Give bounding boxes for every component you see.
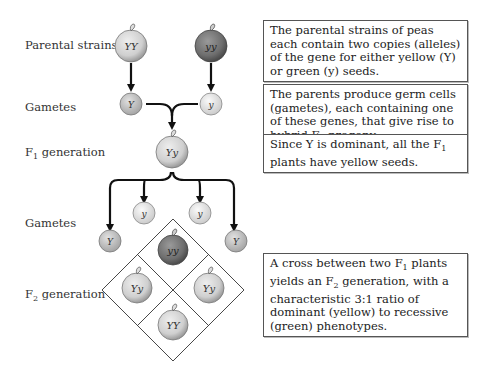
note-parental: The parental strains of peas each contai…: [263, 20, 468, 82]
note-f2: A cross between two F1 plants yields an …: [263, 253, 468, 337]
pea-f2-bottom: YY: [158, 304, 188, 340]
gamete-Y: Y: [120, 93, 142, 115]
gamete-Y-right: Y: [225, 230, 247, 252]
split-arrow-right: [198, 180, 200, 200]
pea-f2-left: Yy: [122, 267, 152, 303]
pea-f2-right: Yy: [194, 267, 224, 303]
svg-text:yy: yy: [166, 245, 179, 256]
pea-f1: Yy: [156, 130, 188, 168]
svg-text:y: y: [140, 209, 147, 219]
split-arrow-left: [144, 180, 145, 200]
svg-text:yy: yy: [204, 41, 217, 52]
svg-text:Y: Y: [128, 100, 135, 110]
svg-text:Yy: Yy: [166, 147, 179, 158]
note-f1: Since Y is dominant, all the F1 plants h…: [263, 134, 468, 173]
svg-text:y: y: [207, 100, 214, 110]
svg-text:Y: Y: [233, 237, 240, 247]
svg-text:Y: Y: [107, 237, 114, 247]
pea-f2-top-green: yy: [158, 229, 188, 265]
pea-parent-green: yy: [195, 24, 227, 62]
gamete-Y-left: Y: [99, 230, 121, 252]
svg-text:Yy: Yy: [203, 283, 216, 294]
gamete-y: y: [200, 93, 222, 115]
svg-text:y: y: [196, 209, 203, 219]
svg-text:YY: YY: [124, 41, 139, 52]
pea-parent-yellow: YY: [115, 24, 147, 62]
gamete-y-left: y: [133, 202, 155, 224]
svg-text:YY: YY: [166, 320, 181, 331]
punnett-diagram: Parental strains Gametes F1 generation G…: [0, 0, 489, 367]
svg-text:Yy: Yy: [131, 283, 144, 294]
gamete-y-right: y: [189, 202, 211, 224]
